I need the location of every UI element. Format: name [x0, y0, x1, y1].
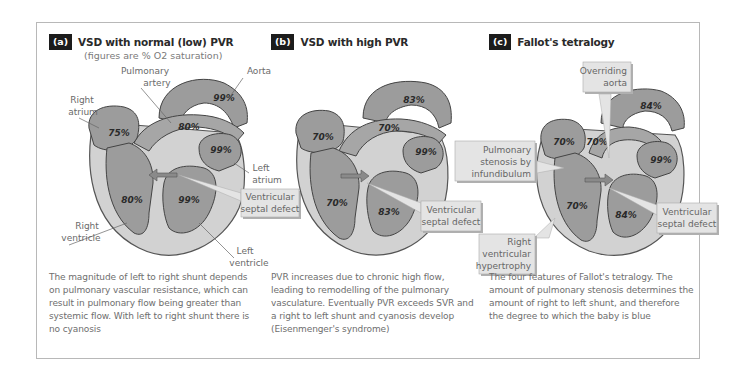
svg-text:atrium: atrium: [68, 107, 98, 117]
heart-diagram-b: 83% 70% 70% 99% 70% 83% Ventricular sept…: [271, 23, 481, 273]
svg-text:ventricular: ventricular: [482, 249, 531, 259]
svg-text:Right: Right: [75, 221, 99, 231]
svg-text:Ventricular: Ventricular: [427, 205, 476, 215]
svg-text:infundibulum: infundibulum: [472, 169, 531, 179]
svg-text:99%: 99%: [650, 155, 672, 165]
svg-text:stenosis by: stenosis by: [480, 157, 531, 167]
svg-text:septal defect: septal defect: [658, 219, 717, 229]
svg-text:aorta: aorta: [603, 78, 627, 88]
svg-text:84%: 84%: [640, 101, 662, 111]
heart-diagram-a: 99% 80% 75% 99% 80% 99% Pulmonary artery…: [49, 23, 264, 273]
svg-text:70%: 70%: [312, 132, 334, 142]
svg-text:80%: 80%: [178, 122, 200, 132]
svg-text:75%: 75%: [108, 128, 130, 138]
svg-text:80%: 80%: [121, 195, 143, 205]
svg-text:Overriding: Overriding: [580, 66, 627, 76]
svg-text:Ventricular: Ventricular: [663, 207, 712, 217]
svg-text:70%: 70%: [566, 201, 588, 211]
svg-text:70%: 70%: [553, 137, 575, 147]
svg-text:artery: artery: [143, 78, 171, 88]
svg-text:Pulmonary: Pulmonary: [483, 145, 532, 155]
svg-text:99%: 99%: [178, 195, 200, 205]
svg-text:Pulmonary: Pulmonary: [121, 66, 170, 76]
svg-text:70%: 70%: [378, 123, 400, 133]
heart-diagram-c: 84% 70% 70% 99% 70% 84% Overriding aorta…: [489, 23, 699, 273]
panel-c-caption: The four features of Fallot's tetralogy.…: [489, 271, 694, 323]
panel-b: (b) VSD with high PVR 83% 70% 70% 99% 70…: [271, 23, 481, 358]
panel-a: (a) VSD with normal (low) PVR (figures a…: [49, 23, 264, 358]
svg-text:70%: 70%: [586, 137, 608, 147]
panel-c: (c) Fallot's tetralogy 84% 70% 70% 99% 7…: [489, 23, 699, 358]
figure-frame: (a) VSD with normal (low) PVR (figures a…: [36, 22, 700, 359]
panel-b-caption: PVR increases due to chronic high flow, …: [271, 271, 476, 336]
svg-text:septal defect: septal defect: [422, 217, 481, 227]
svg-text:84%: 84%: [615, 210, 637, 220]
svg-text:99%: 99%: [415, 147, 437, 157]
svg-text:Left: Left: [237, 246, 254, 256]
svg-text:Right: Right: [507, 237, 531, 247]
svg-text:ventricle: ventricle: [61, 233, 101, 243]
svg-text:Aorta: Aorta: [247, 66, 271, 76]
svg-text:Left: Left: [253, 163, 270, 173]
svg-text:Right: Right: [70, 95, 94, 105]
panel-a-caption: The magnitude of left to right shunt dep…: [49, 271, 254, 336]
svg-text:ventricle: ventricle: [229, 258, 269, 268]
svg-text:hypertrophy: hypertrophy: [476, 261, 532, 271]
svg-text:99%: 99%: [210, 145, 232, 155]
svg-text:83%: 83%: [403, 95, 425, 105]
svg-text:83%: 83%: [378, 207, 400, 217]
svg-text:70%: 70%: [326, 198, 348, 208]
